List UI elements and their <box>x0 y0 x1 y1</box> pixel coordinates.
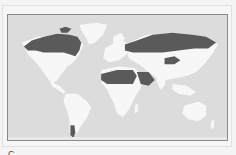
caption-fragment: C <box>8 149 16 155</box>
world-map <box>7 14 228 141</box>
world-map-svg <box>8 15 227 140</box>
land-antarctica <box>8 137 227 140</box>
figure-caption: C <box>8 149 40 155</box>
